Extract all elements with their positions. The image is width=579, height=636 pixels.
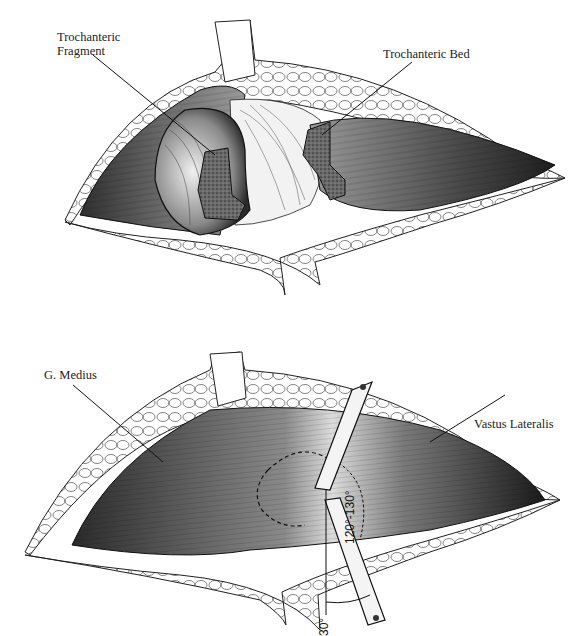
bottom-illustration: [0, 340, 579, 636]
top-panel-trochanteric-osteotomy: Trochanteric Fragment Trochanteric Bed: [0, 0, 579, 310]
osteotome-upper-hole: [360, 384, 366, 390]
label-angle-120-130: 120°-130°: [343, 490, 357, 544]
label-vastus-lateralis: Vastus Lateralis: [474, 417, 554, 431]
label-g-medius: G. Medius: [44, 368, 97, 382]
label-trochanteric-fragment: Trochanteric Fragment: [57, 30, 120, 58]
label-trochanteric-bed: Trochanteric Bed: [383, 47, 470, 61]
bottom-panel-osteotomy-angles: G. Medius Vastus Lateralis 120°-130° 30°: [0, 340, 579, 636]
osteotome-lower-hole: [373, 615, 379, 621]
label-angle-30: 30°: [317, 618, 331, 636]
